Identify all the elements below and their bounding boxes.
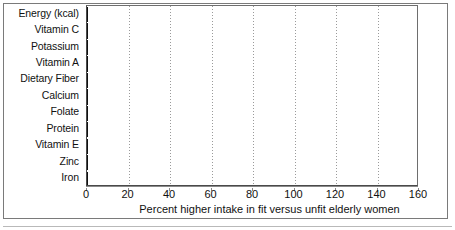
bar: 78 <box>87 73 249 87</box>
x-tick-label: 0 <box>71 189 101 200</box>
bar: 33 <box>87 172 155 186</box>
bar-fill: 52 <box>87 122 88 136</box>
bar: 36 <box>87 155 162 169</box>
bar: 62 <box>87 106 216 120</box>
category-label: Energy (kcal) <box>18 8 79 19</box>
plot-area: 541441018978656252373633 <box>86 5 418 186</box>
category-label: Dietary Fiber <box>20 73 79 84</box>
category-label: Zinc <box>60 156 79 167</box>
bar: 37 <box>87 139 164 153</box>
bar-fill: 89 <box>87 56 88 70</box>
bar-fill: 78 <box>87 73 88 87</box>
category-label: Calcium <box>42 90 79 101</box>
bar: 144 <box>87 23 386 37</box>
x-axis-line <box>86 186 418 187</box>
category-label: Iron <box>61 172 79 183</box>
x-tick-label: 20 <box>113 189 143 200</box>
bar-fill: 101 <box>87 40 88 54</box>
figure: Energy (kcal)Vitamin CPotassiumVitamin A… <box>0 0 455 230</box>
bar-fill: 33 <box>87 172 88 186</box>
x-tick-label: 140 <box>362 189 392 200</box>
category-label: Vitamin C <box>35 24 79 35</box>
bar-fill: 65 <box>87 89 88 103</box>
bottom-separator <box>3 226 452 227</box>
bar-fill: 36 <box>87 155 88 169</box>
x-tick-label: 40 <box>154 189 184 200</box>
bar: 65 <box>87 89 222 103</box>
x-tick-label: 120 <box>320 189 350 200</box>
bar-fill: 62 <box>87 106 88 120</box>
x-tick-label: 160 <box>403 189 433 200</box>
bar: 54 <box>87 7 199 21</box>
bar: 52 <box>87 122 195 136</box>
x-axis-title-text: Percent higher intake in fit versus unfi… <box>139 203 399 215</box>
x-tick-label: 80 <box>237 189 267 200</box>
category-label: Potassium <box>31 41 79 52</box>
x-axis-title: Percent higher intake in fit versus unfi… <box>0 204 455 215</box>
category-label: Vitamin A <box>36 57 79 68</box>
x-tick-label: 60 <box>196 189 226 200</box>
bar-fill: 37 <box>87 139 88 153</box>
bar: 101 <box>87 40 297 54</box>
category-label: Vitamin E <box>35 139 79 150</box>
bar-fill: 54 <box>87 7 88 21</box>
x-tick-label: 100 <box>279 189 309 200</box>
bar-fill: 144 <box>87 23 88 37</box>
category-label: Protein <box>46 123 79 134</box>
category-axis: Energy (kcal)Vitamin CPotassiumVitamin A… <box>0 5 83 186</box>
category-label: Folate <box>50 106 79 117</box>
bar: 89 <box>87 56 272 70</box>
